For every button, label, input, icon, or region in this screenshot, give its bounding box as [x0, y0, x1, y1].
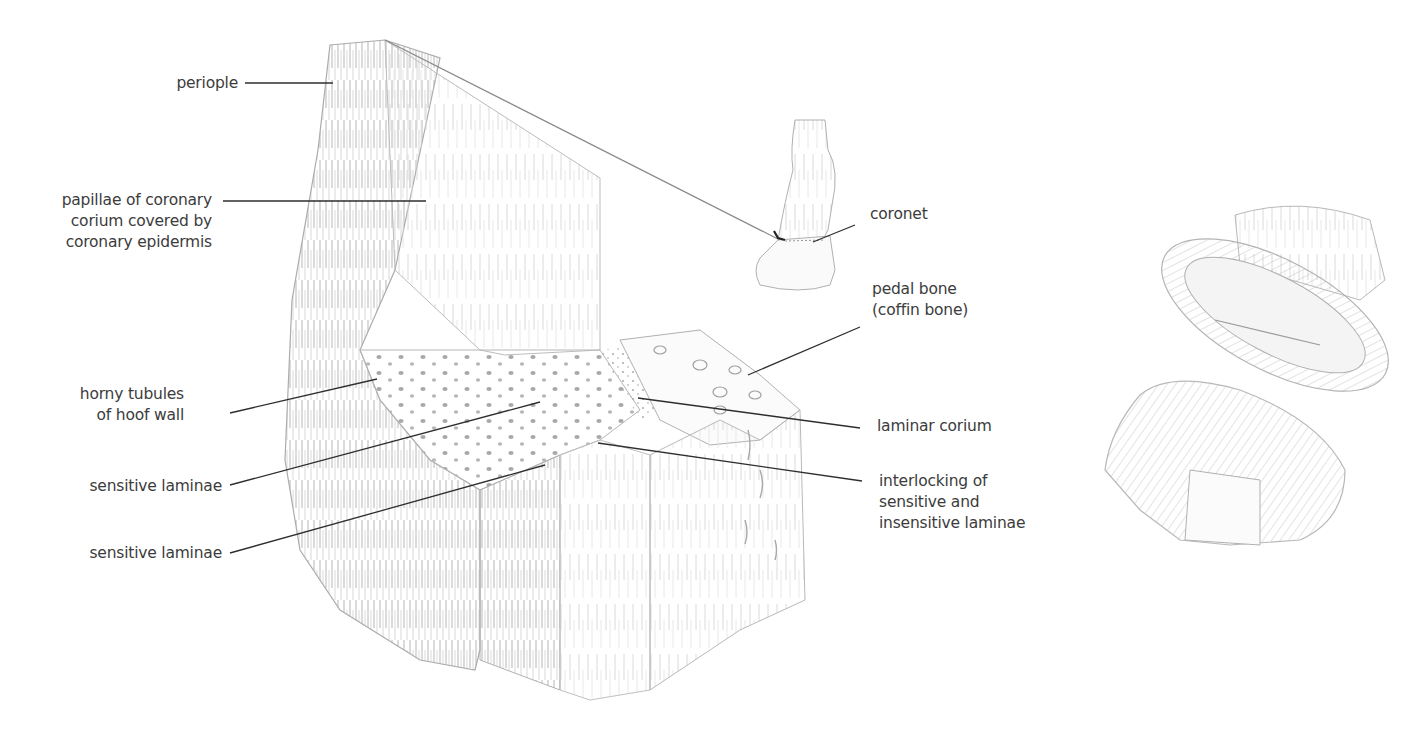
label-periople: periople: [176, 73, 238, 94]
label-interlocking-laminae: interlocking of sensitive and insensitiv…: [879, 471, 1025, 534]
label-sensitive-laminae-2: sensitive laminae: [89, 543, 222, 564]
label-laminar-corium: laminar corium: [877, 416, 992, 437]
label-horny-tubules: horny tubules of hoof wall: [80, 384, 184, 426]
lower-leg-inset-illustration: [756, 120, 835, 290]
label-pedal-bone: pedal bone (coffin bone): [872, 279, 968, 321]
hoof-wall-block-illustration: [285, 40, 805, 700]
label-papillae-of-coronary-corium: papillae of coronary corium covered by c…: [62, 190, 212, 253]
hoof-capsule-illustration: [1105, 206, 1411, 545]
label-coronet: coronet: [870, 204, 928, 225]
label-sensitive-laminae-1: sensitive laminae: [89, 476, 222, 497]
leader-pedal-bone: [748, 327, 860, 375]
